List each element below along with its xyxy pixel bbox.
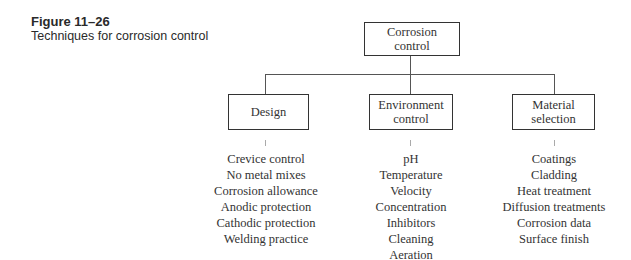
list-item: No metal mixes: [186, 167, 346, 183]
design-items-list: Crevice control No metal mixes Corrosion…: [186, 151, 346, 247]
environment-items-list: pH Temperature Velocity Concentration In…: [331, 151, 491, 260]
list-item: pH: [331, 151, 491, 167]
list-item: Surface finish: [474, 231, 631, 247]
list-item: Cladding: [474, 167, 631, 183]
list-item: Concentration: [331, 199, 491, 215]
material-tick: [554, 140, 555, 146]
material-label-line1: Material: [532, 98, 574, 112]
environment-drop-line: [410, 74, 411, 95]
list-item: Coatings: [474, 151, 631, 167]
list-item: Cleaning: [331, 231, 491, 247]
figure-label: Figure 11–26: [31, 14, 208, 29]
design-tick: [265, 140, 266, 146]
list-item: Aeration: [331, 247, 491, 260]
environment-label-line1: Environment: [378, 98, 443, 112]
list-item: Temperature: [331, 167, 491, 183]
figure-description: Techniques for corrosion control: [31, 29, 208, 44]
list-item: Corrosion allowance: [186, 183, 346, 199]
design-drop-line: [265, 74, 266, 95]
list-item: Velocity: [331, 183, 491, 199]
root-stem-line: [410, 56, 411, 75]
figure-caption: Figure 11–26 Techniques for corrosion co…: [31, 14, 208, 44]
environment-tick: [410, 140, 411, 146]
list-item: Heat treatment: [474, 183, 631, 199]
list-item: Crevice control: [186, 151, 346, 167]
list-item: Anodic protection: [186, 199, 346, 215]
list-item: Welding practice: [186, 231, 346, 247]
material-drop-line: [554, 74, 555, 95]
root-label-line1: Corrosion: [387, 25, 437, 39]
branch-node-environment-control: Environment control: [369, 94, 453, 130]
branch-node-design: Design: [228, 94, 309, 130]
material-items-list: Coatings Cladding Heat treatment Diffusi…: [474, 151, 631, 247]
material-label-line2: selection: [531, 112, 575, 126]
list-item: Cathodic protection: [186, 215, 346, 231]
branch-node-material-selection: Material selection: [512, 94, 595, 130]
list-item: Diffusion treatments: [474, 199, 631, 215]
environment-label-line2: control: [393, 112, 428, 126]
root-label-line2: control: [394, 39, 429, 53]
list-item: Corrosion data: [474, 215, 631, 231]
root-node-corrosion-control: Corrosion control: [364, 22, 460, 56]
list-item: Inhibitors: [331, 215, 491, 231]
design-label: Design: [251, 105, 286, 119]
